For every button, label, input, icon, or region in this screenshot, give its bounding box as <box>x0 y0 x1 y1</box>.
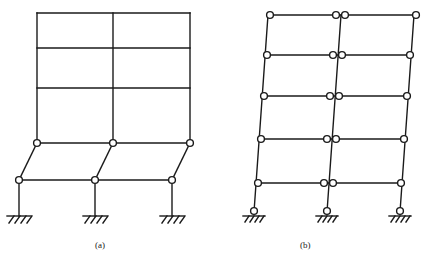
fixed-support-icon-a-left <box>7 216 32 223</box>
plastic-hinge-icon <box>251 208 258 215</box>
figure-collapse-mechanisms: (a) (b) <box>0 0 422 262</box>
plastic-hinge-icon <box>110 140 117 147</box>
plastic-hinge-icon <box>333 136 340 143</box>
frames-svg-canvas <box>0 0 422 262</box>
frame-a-group <box>7 13 193 223</box>
plastic-hinge-icon <box>336 93 343 100</box>
frame-b-group <box>243 12 419 222</box>
plastic-hinge-icon <box>34 140 41 147</box>
plastic-hinge-icon <box>261 93 268 100</box>
plastic-hinge-icon <box>398 180 405 187</box>
plastic-hinge-icon <box>258 136 265 143</box>
frame-a-upper-columns <box>37 13 190 143</box>
plastic-hinge-icon <box>342 12 349 19</box>
fixed-support-icon-a-right <box>160 216 185 223</box>
frame-a-soft-column-left <box>19 143 37 180</box>
fixed-support-icon-b-middle <box>316 216 338 222</box>
panel-a-caption: (a) <box>95 240 105 250</box>
plastic-hinge-icon <box>264 52 271 59</box>
plastic-hinge-icon <box>169 177 176 184</box>
panel-b-caption: (b) <box>300 240 311 250</box>
plastic-hinge-icon <box>397 208 404 215</box>
plastic-hinge-icon <box>413 12 420 19</box>
plastic-hinge-icon <box>267 12 274 19</box>
plastic-hinge-icon <box>407 52 414 59</box>
frame-a-soft-story-columns <box>19 143 190 180</box>
plastic-hinge-icon <box>321 180 328 187</box>
plastic-hinge-icon <box>401 136 408 143</box>
fixed-support-icon-b-left <box>243 216 265 222</box>
frame-a-soft-column-right <box>172 143 190 180</box>
plastic-hinge-icon <box>404 93 411 100</box>
fixed-support-icon-a-middle <box>83 216 108 223</box>
plastic-hinge-icon <box>333 12 340 19</box>
frame-b-supports <box>243 216 411 222</box>
plastic-hinge-icon <box>330 52 337 59</box>
frame-a-soft-column-middle <box>95 143 113 180</box>
plastic-hinge-icon <box>324 136 331 143</box>
plastic-hinge-icon <box>92 177 99 184</box>
frame-b-beam-hinges <box>255 12 420 187</box>
frame-a-supports <box>7 216 185 223</box>
fixed-support-icon-b-right <box>389 216 411 222</box>
plastic-hinge-icon <box>327 93 334 100</box>
plastic-hinge-icon <box>339 52 346 59</box>
frame-b-base-hinges <box>251 208 404 215</box>
plastic-hinge-icon <box>255 180 262 187</box>
frame-a-base-columns <box>19 180 172 216</box>
plastic-hinge-icon <box>16 177 23 184</box>
plastic-hinge-icon <box>187 140 194 147</box>
plastic-hinge-icon <box>324 208 331 215</box>
plastic-hinge-icon <box>330 180 337 187</box>
